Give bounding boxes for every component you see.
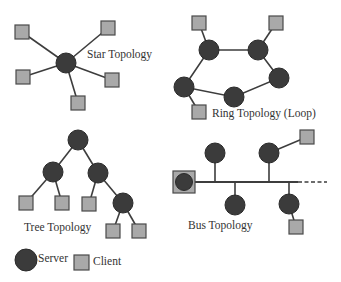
ring-topology-label: Ring Topology (Loop) [212, 107, 316, 120]
ring-server-icon [224, 87, 244, 107]
tree-topology: Tree Topology [19, 130, 146, 238]
star-client-icon [16, 70, 30, 84]
tree-server-icon [113, 193, 133, 213]
tree-server-icon [88, 163, 108, 183]
ring-server-icon [199, 40, 219, 60]
bus-topology-label: Bus Topology [188, 219, 253, 232]
star-server-icon [56, 53, 76, 73]
bus-server-icon [279, 194, 299, 214]
star-client-icon [105, 73, 119, 87]
bus-server-icon [205, 143, 225, 163]
bus-client-icon [300, 130, 314, 144]
legend-server-icon [15, 249, 37, 271]
ring-client-icon [192, 105, 206, 119]
bus-server-icon [259, 143, 279, 163]
network-topologies-diagram: Star Topology Ring Topology (Loop) [0, 0, 341, 282]
star-client-icon [15, 25, 29, 39]
ring-client-icon [269, 16, 283, 30]
legend-client-label: Client [93, 255, 122, 267]
legend-client-icon [74, 255, 89, 270]
tree-client-icon [132, 224, 146, 238]
tree-client-icon [19, 196, 33, 210]
ring-server-icon [248, 40, 268, 60]
tree-client-icon [55, 196, 69, 210]
star-client-icon [71, 96, 85, 110]
bus-topology: Bus Topology [173, 130, 327, 234]
ring-server-icon [174, 77, 194, 97]
ring-server-icon [269, 68, 289, 88]
star-topology-label: Star Topology [87, 48, 152, 61]
tree-client-icon [82, 197, 96, 211]
star-client-icon [101, 21, 115, 35]
legend: Server Client [15, 249, 122, 271]
bus-terminal-server-icon [176, 174, 193, 191]
tree-server-icon [68, 130, 88, 150]
tree-server-icon [43, 162, 63, 182]
tree-client-icon [106, 224, 120, 238]
ring-topology: Ring Topology (Loop) [174, 16, 316, 120]
ring-client-icon [192, 16, 206, 30]
bus-client-icon [289, 220, 303, 234]
tree-topology-label: Tree Topology [24, 221, 91, 234]
legend-server-label: Server [38, 252, 68, 264]
bus-server-icon [225, 195, 245, 215]
star-topology: Star Topology [15, 21, 152, 110]
